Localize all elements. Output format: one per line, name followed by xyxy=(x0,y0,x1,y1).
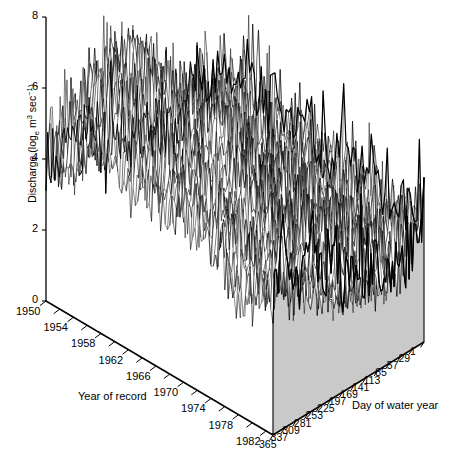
x-tick-1978: 1978 xyxy=(209,419,233,431)
y-tick-1: 1 xyxy=(410,345,416,357)
x-tick-1962: 1962 xyxy=(99,354,123,366)
z-tick-6: 6 xyxy=(20,80,38,92)
y-tick-29: 29 xyxy=(398,352,410,364)
mesh-surface-plot xyxy=(0,0,453,461)
x-tick-1974: 1974 xyxy=(181,402,205,414)
z-tick-2: 2 xyxy=(20,222,38,234)
x-tick-1958: 1958 xyxy=(71,337,95,349)
z-tick-0: 0 xyxy=(20,293,38,305)
figure-root: Discharge (loge m3 sec−1) 02468 19501954… xyxy=(0,0,453,461)
x-tick-1970: 1970 xyxy=(154,386,178,398)
wireframe-mesh xyxy=(46,15,424,326)
x-axis-label: Year of record xyxy=(78,390,147,402)
x-tick-1982: 1982 xyxy=(236,435,260,447)
y-tick-365: 365 xyxy=(259,438,277,450)
y-axis-label: Day of water year xyxy=(352,399,438,411)
x-tick-1950: 1950 xyxy=(16,305,40,317)
x-tick-1966: 1966 xyxy=(126,370,150,382)
x-tick-1954: 1954 xyxy=(44,321,68,333)
z-tick-8: 8 xyxy=(20,9,38,21)
y-tick-57: 57 xyxy=(387,359,399,371)
z-tick-4: 4 xyxy=(20,151,38,163)
